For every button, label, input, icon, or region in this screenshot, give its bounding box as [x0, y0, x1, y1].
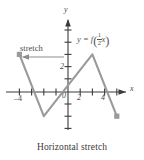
- x-tick-label-4: 4: [101, 93, 105, 102]
- x-tick-label-2: 2: [77, 93, 81, 102]
- origin-label: 0: [62, 91, 66, 100]
- function-label: y = f(12x): [77, 32, 109, 49]
- x-tick-label-minus4: –4: [14, 94, 22, 103]
- x-axis-label: x: [130, 84, 134, 93]
- function-label-equals: =: [83, 34, 89, 44]
- stretch-annotation-label: stretch: [20, 43, 43, 53]
- figure-container: x y –4 2 4 2 0 stretch y = f(12x) Horizo…: [0, 0, 144, 160]
- stretch-arrowhead: [22, 54, 30, 60]
- right-paren: ): [105, 34, 109, 48]
- figure-caption: Horizontal stretch: [0, 142, 144, 152]
- y-tick-label-2: 2: [60, 62, 64, 71]
- x-axis-arrowhead: [119, 89, 127, 95]
- function-label-lhs: y: [77, 34, 81, 44]
- y-axis-label: y: [64, 5, 68, 14]
- y-axis-arrowhead: [65, 19, 71, 27]
- endpoint-marker-right: [114, 114, 119, 119]
- graph-plot: [0, 0, 144, 144]
